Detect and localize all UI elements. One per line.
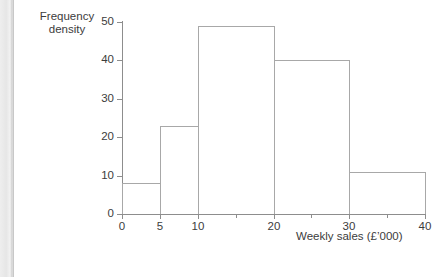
histogram-bar-0-5 bbox=[122, 183, 161, 214]
x-tick-40 bbox=[425, 214, 426, 219]
y-tick-label-text: 40 bbox=[88, 54, 114, 66]
x-tick-label-10: 10 bbox=[183, 220, 213, 232]
y-tick-label-text: 30 bbox=[88, 93, 114, 105]
histogram-bar-20-30 bbox=[274, 60, 350, 214]
y-tick-50 bbox=[117, 22, 122, 23]
x-tick-label-40: 40 bbox=[410, 220, 440, 232]
x-tick-label-5: 5 bbox=[145, 220, 175, 232]
frequency-density-histogram: Frequency density Weekly sales (£’000) 0… bbox=[0, 0, 448, 277]
y-tick-label-text: 20 bbox=[88, 131, 114, 143]
x-tick-30 bbox=[349, 214, 350, 219]
x-tick-5 bbox=[160, 214, 161, 219]
x-tick-10 bbox=[198, 214, 199, 219]
x-tick-label-20: 20 bbox=[259, 220, 289, 232]
y-tick-40 bbox=[117, 60, 122, 61]
y-tick-10 bbox=[117, 176, 122, 177]
x-tick-minor-35 bbox=[387, 214, 388, 218]
y-tick-30 bbox=[117, 99, 122, 100]
x-tick-label-0: 0 bbox=[107, 220, 137, 232]
y-tick-label-text: 0 bbox=[88, 208, 114, 220]
histogram-bar-5-10 bbox=[160, 126, 199, 214]
x-tick-minor-25 bbox=[311, 214, 312, 218]
x-tick-label-30: 30 bbox=[334, 220, 364, 232]
x-tick-0 bbox=[122, 214, 123, 219]
x-tick-minor-15 bbox=[236, 214, 237, 218]
histogram-bar-10-20 bbox=[198, 26, 275, 214]
page-canvas: Frequency density Weekly sales (£’000) 0… bbox=[0, 0, 448, 277]
y-tick-label-text: 50 bbox=[88, 16, 114, 28]
x-tick-20 bbox=[274, 214, 275, 219]
y-tick-20 bbox=[117, 137, 122, 138]
histogram-bar-30-40 bbox=[349, 172, 426, 214]
y-tick-label-text: 10 bbox=[88, 170, 114, 182]
